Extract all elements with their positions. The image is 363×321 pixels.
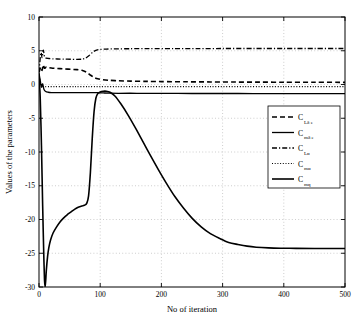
- legend-subscript-C_mq: mq: [304, 182, 311, 187]
- x-tick-label: 200: [156, 290, 168, 299]
- legend-subscript-C_Ldeltae: Lδ e: [304, 120, 314, 125]
- legend-label-C_Lalpha: C: [298, 144, 303, 153]
- x-tick-label: 100: [95, 290, 107, 299]
- x-tick-label: 0: [37, 290, 41, 299]
- legend-subscript-C_mdeltae: mδ e: [304, 135, 314, 140]
- legend-label-C_malpha: C: [298, 160, 303, 169]
- y-axis-title: Values of the parameters: [4, 110, 14, 194]
- parameter-convergence-chart: 0100200300400500 1050-5-10-15-20-25-30 N…: [0, 0, 363, 321]
- y-tick-label: -10: [25, 148, 35, 157]
- y-tick-label: 5: [31, 46, 35, 55]
- y-tick-label: -15: [25, 181, 35, 190]
- legend-subscript-C_Lalpha: Lα: [304, 151, 310, 156]
- y-tick-label: -30: [25, 283, 35, 292]
- legend-label-C_mq: C: [298, 175, 303, 184]
- chart-legend: CLδ eCmδ eCLαCmαCmq: [268, 106, 340, 188]
- legend-label-C_Ldeltae: C: [298, 113, 303, 122]
- legend-frame: [268, 106, 340, 188]
- y-tick-label: -20: [25, 215, 35, 224]
- figure-container: 0100200300400500 1050-5-10-15-20-25-30 N…: [0, 0, 363, 321]
- y-tick-label: 10: [28, 13, 36, 22]
- y-tick-label: -25: [25, 249, 35, 258]
- y-tick-label: -5: [29, 114, 35, 123]
- legend-subscript-C_malpha: mα: [304, 166, 311, 171]
- x-axis-title: No of iteration: [167, 304, 218, 314]
- y-tick-label: 0: [31, 80, 35, 89]
- x-tick-label: 300: [217, 290, 229, 299]
- x-tick-label: 500: [339, 290, 351, 299]
- legend-label-C_mdeltae: C: [298, 129, 303, 138]
- x-tick-label: 400: [278, 290, 290, 299]
